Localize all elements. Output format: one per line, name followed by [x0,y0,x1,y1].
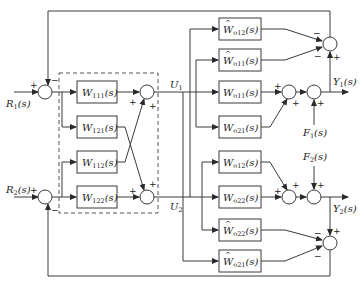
w121-to-sum-u2 [117,127,144,190]
u2-to-wo22hat [202,162,218,230]
e1-to-w121 [62,92,76,127]
wo21hat-to-bottom-compare [261,246,322,261]
f2-plus: + [317,180,325,190]
y1-sum-plus-left: + [274,81,282,91]
u1-sum-plus-left: + [129,97,137,107]
block-w112: W112(s) [77,151,118,173]
y1-sum-plus-bottom: + [292,98,300,108]
f1-label: F1(s) [302,127,327,140]
f1-plus: + [317,98,325,108]
r2-minus-sign: − [51,205,59,215]
wo22hat-to-bottom-compare [261,230,322,240]
y2-plant-sum [282,190,296,204]
svg-text:^: ^ [225,251,231,259]
top-compare-minus-2: − [314,51,322,61]
r1-minus-sign: − [51,75,59,85]
w112-to-sum-u1 [117,99,144,162]
y2-disturbance-sum [307,190,321,204]
e2-to-w112 [62,162,76,197]
u2-summing-junction [140,190,154,204]
u1-to-wo21 [196,60,218,127]
bottom-compare-plus: + [333,226,341,236]
r2-label: R2(s) [5,184,31,197]
r2-plus-sign: + [30,185,38,195]
f2-label: F2(s) [302,151,327,164]
block-wo12: Wo12(s) [219,151,261,173]
y2-label: Y2(s) [333,203,357,216]
bottom-compare-minus-1: − [314,228,322,238]
u2-to-wo12hat [190,29,218,197]
feedback-line-bottom [48,204,330,276]
block-wo12-hat: Wo12(s) ^ [219,18,261,40]
y2-sum-plus-top: + [292,180,300,190]
u1-label: U1 [170,79,183,92]
top-compare-plus: + [333,52,341,62]
block-diagram: + − R1(s) + − R2(s) W111(s) W121(s) W112… [0,0,361,288]
u1-sum-plus-bottom: + [149,101,157,111]
block-wo21: Wo21(s) [219,116,261,138]
block-wo21-hat: Wo21(s) ^ [219,250,261,272]
r1-plus-sign: + [30,80,38,90]
top-compare-minus-1: − [313,28,321,38]
block-wo11-hat: Wo11(s) ^ [219,49,261,71]
u2-label: U2 [170,201,183,214]
u1-to-wo21hat [183,92,218,261]
y2-compare-junction [323,236,337,250]
block-w111: W111(s) [77,81,118,103]
y1-disturbance-sum [307,85,321,99]
wo21-to-y1-sum [261,99,287,127]
u1-summing-junction [140,85,154,99]
u2-sum-plus-top: + [149,179,157,189]
svg-text:^: ^ [225,19,231,27]
block-w122: W122(s) [77,186,118,208]
wo11hat-to-top-compare [261,47,322,60]
svg-text:^: ^ [225,50,231,58]
block-w121: W121(s) [77,116,118,138]
y1-plant-sum [282,85,296,99]
block-wo22: Wo22(s) [219,186,261,208]
svg-text:^: ^ [225,220,231,228]
y1-label: Y1(s) [333,76,357,89]
feedback-line-top [48,11,330,85]
y1-compare-junction [323,37,337,51]
r1-label: R1(s) [5,98,31,111]
block-wo22-hat: Wo22(s) ^ [219,219,261,241]
u2-sum-plus-left: + [129,186,137,196]
r2-summing-junction [38,190,52,204]
y2-sum-plus-left: + [274,186,282,196]
r1-summing-junction [38,85,52,99]
bottom-compare-minus-2: − [314,251,322,261]
block-wo11: Wo11(s) [219,81,261,103]
